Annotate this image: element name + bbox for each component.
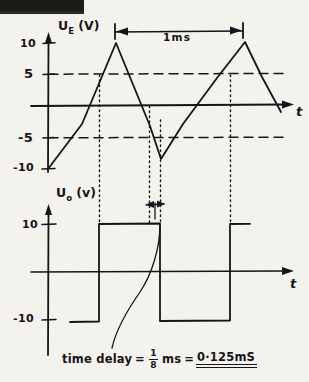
caption-equals-1: =: [135, 354, 145, 366]
caption-lead-text: time delay: [62, 354, 132, 366]
bottom-x-axis: [31, 271, 286, 272]
top-y-axis-subscript: E: [68, 26, 74, 36]
caption-fraction: 1 8: [149, 349, 158, 370]
top-panel-axes: [31, 32, 294, 172]
bottom-y-axis-title: Uo (v): [56, 187, 96, 202]
bottom-tick-label-10: 10: [22, 219, 38, 230]
output-square-waveform: [70, 224, 250, 323]
top-tick-label-minus10: -10: [13, 162, 34, 173]
bottom-y-axis: [48, 212, 49, 355]
caption-leader-curve: [112, 224, 160, 348]
top-x-axis-label: t: [296, 105, 302, 118]
top-y-axis-title: UE (V): [58, 20, 99, 35]
bottom-y-axis-subscript: o: [66, 193, 72, 203]
bottom-tick-label-minus10: -10: [13, 313, 34, 324]
bottom-y-axis-symbol: U: [56, 185, 66, 200]
bottom-y-axis-arrow: [45, 204, 52, 215]
top-x-axis-arrow: [282, 101, 294, 109]
top-y-axis-symbol: U: [58, 18, 68, 33]
top-tick-label-minus5: -5: [18, 131, 33, 144]
top-tick-10: [43, 43, 55, 44]
bottom-x-axis-label: t: [290, 277, 296, 290]
handwritten-figure-sheet: UE (V) 10 5 -5 -10 1ms t Uo (v) 10 -10 t…: [0, 0, 309, 382]
time-delay-caption: time delay = 1 8 ms = 0·125mS: [62, 349, 255, 370]
bottom-x-axis-arrow: [282, 267, 294, 275]
top-y-axis-unit: (V): [78, 18, 99, 33]
top-y-axis-arrow: [45, 32, 52, 43]
caption-result: 0·125mS: [197, 352, 255, 368]
fraction-denominator: 8: [150, 360, 156, 370]
bottom-y-axis-unit: (v): [76, 185, 96, 200]
threshold-line-plus5: [49, 73, 286, 74]
figure-vector-layer: [0, 0, 309, 382]
period-label: 1ms: [163, 32, 191, 43]
bottom-tick-minus10: [42, 320, 56, 321]
top-x-axis: [31, 105, 286, 107]
period-bar-right-arrow: [230, 27, 242, 35]
period-bar-left-arrow: [116, 28, 128, 36]
bottom-panel-axes: [31, 204, 294, 355]
caption-unit-1: ms: [162, 354, 181, 366]
top-tick-label-5: 5: [24, 67, 33, 80]
bottom-tick-10: [42, 224, 56, 225]
caption-equals-2: =: [184, 354, 194, 366]
threshold-line-minus5: [49, 137, 283, 138]
top-tick-label-10: 10: [20, 38, 36, 49]
fraction-numerator: 1: [150, 349, 156, 359]
